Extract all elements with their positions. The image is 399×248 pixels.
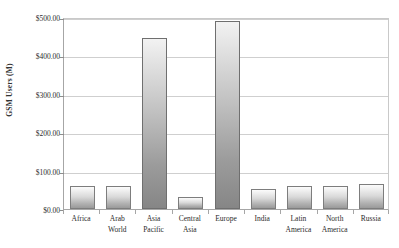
bar-india [251, 189, 276, 209]
x-axis-label-line: Russia [345, 214, 397, 225]
bar-chart: GSM Users (M) $500.00 $400.00 $300.00 $2… [0, 0, 399, 248]
x-axis-label-line: Asia [164, 225, 216, 236]
bar-russia [359, 184, 384, 209]
x-axis-label: Russia [345, 214, 397, 225]
y-tick-mark [59, 173, 64, 174]
y-axis-tick-labels: $500.00 $400.00 $300.00 $200.00 $100.00 … [0, 18, 60, 210]
y-tick-label: $300.00 [2, 90, 60, 99]
y-tick-mark [59, 19, 64, 20]
x-axis-label-line: America [309, 225, 361, 236]
bar-africa [70, 186, 95, 209]
y-tick-label: $200.00 [2, 129, 60, 138]
bar-central-asia [178, 197, 203, 209]
y-tick-label: $500.00 [2, 14, 60, 23]
x-axis-labels: AfricaArabWorldAsiaPacificCentralAsiaEur… [63, 214, 389, 246]
y-tick-mark [59, 57, 64, 58]
gridline [64, 19, 388, 20]
y-tick-mark [59, 134, 64, 135]
bar-asia-pacific [142, 38, 167, 209]
bar-europe [215, 21, 240, 209]
bar-latin-america [287, 186, 312, 209]
bar-north-america [323, 186, 348, 209]
bar-arab-world [106, 186, 131, 209]
y-tick-label: $0.00 [2, 206, 60, 215]
y-tick-label: $400.00 [2, 52, 60, 61]
y-tick-mark [59, 96, 64, 97]
plot-area [63, 18, 389, 210]
y-tick-label: $100.00 [2, 167, 60, 176]
